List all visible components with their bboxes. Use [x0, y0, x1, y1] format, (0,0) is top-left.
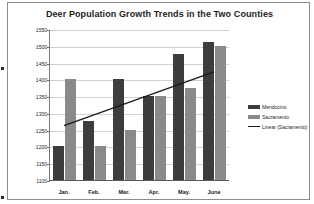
y-tick-mark: [47, 181, 50, 182]
x-tick-label-5: June: [207, 189, 220, 195]
y-tick-label: 1450: [21, 61, 47, 67]
chart-title: Deer Population Growth Trends in the Two…: [8, 9, 311, 19]
scan-artifact-top: [1, 67, 4, 70]
x-tick-label-0: Jan.: [58, 189, 69, 195]
x-tick-label-3: Apr.: [149, 189, 160, 195]
x-tick-label-4: May.: [178, 189, 190, 195]
y-tick-label: 1500: [21, 44, 47, 50]
y-tick-label: 1150: [21, 161, 47, 167]
y-tick-label: 1300: [21, 111, 47, 117]
chart-legend: MendocinoSacramentoLinear (Sacramento): [248, 102, 314, 132]
scan-artifact-bottom: [1, 196, 4, 199]
y-tick-label: 1550: [21, 27, 47, 33]
y-axis: 1100115012001250130013501400145015001550: [19, 30, 47, 181]
y-tick-label: 1100: [21, 178, 47, 184]
legend-item[interactable]: Mendocino: [248, 102, 314, 111]
legend-swatch-icon: [248, 115, 260, 119]
legend-label: Sacramento: [262, 114, 289, 120]
x-tick-label-1: Feb.: [88, 189, 100, 195]
y-tick-label: 1200: [21, 144, 47, 150]
trendline-linear-sacramento: [49, 30, 229, 181]
x-tick-label-2: Mar.: [118, 189, 129, 195]
legend-label: Mendocino: [262, 104, 286, 110]
y-tick-label: 1250: [21, 128, 47, 134]
chart-container: Deer Population Growth Trends in the Two…: [7, 2, 310, 200]
x-axis: Jan.Feb.Mar.Apr.May.June: [49, 183, 229, 195]
legend-item[interactable]: Sacramento: [248, 112, 314, 121]
legend-swatch-icon: [248, 126, 260, 128]
plot-area: [49, 30, 229, 181]
x-axis-line: [49, 180, 229, 181]
y-tick-label: 1350: [21, 94, 47, 100]
legend-swatch-icon: [248, 105, 260, 109]
y-tick-label: 1400: [21, 77, 47, 83]
legend-item[interactable]: Linear (Sacramento): [248, 122, 314, 131]
legend-label: Linear (Sacramento): [262, 124, 307, 130]
